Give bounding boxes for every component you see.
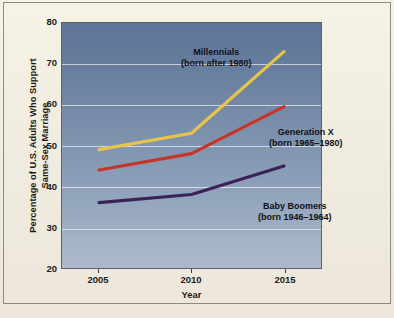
x-axis-ticks: 2005 2010 2015 (61, 274, 322, 288)
x-tickmark-2015 (285, 269, 286, 273)
x-tick-2005: 2005 (76, 274, 120, 285)
plot-area: Millennials (born after 1980) Generation… (61, 22, 322, 269)
chart-figure: Percentage of U.S. Adults Who Support Sa… (0, 0, 394, 318)
annotation-baby-boomers: Baby Boomers (born 1946–1964) (258, 201, 332, 223)
annotation-generation-x-sub: (born 1965–1980) (269, 138, 343, 149)
annotation-generation-x-name: Generation X (278, 127, 334, 137)
annotation-baby-boomers-sub: (born 1946–1964) (258, 212, 332, 223)
x-tickmark-2005 (98, 269, 99, 273)
y-tick-40: 40 (31, 182, 57, 192)
y-tick-60: 60 (31, 99, 57, 109)
x-tickmark-2010 (191, 269, 192, 273)
y-tick-70: 70 (31, 58, 57, 68)
annotation-millennials-sub: (born after 1980) (181, 58, 252, 69)
annotation-millennials-name: Millennials (193, 47, 239, 57)
y-tick-20: 20 (31, 264, 57, 274)
annotation-millennials: Millennials (born after 1980) (181, 47, 252, 69)
x-axis-title: Year (61, 289, 322, 300)
y-tick-50: 50 (31, 141, 57, 151)
y-tick-80: 80 (31, 17, 57, 27)
annotation-generation-x: Generation X (born 1965–1980) (269, 127, 343, 149)
series-line-generation-x (99, 107, 284, 170)
y-axis-ticks: 80 70 60 50 40 30 20 (27, 22, 57, 269)
x-tick-2015: 2015 (263, 274, 307, 285)
y-tick-30: 30 (31, 223, 57, 233)
annotation-baby-boomers-name: Baby Boomers (263, 201, 327, 211)
x-tick-2010: 2010 (169, 274, 213, 285)
series-line-baby-boomers (99, 166, 284, 203)
